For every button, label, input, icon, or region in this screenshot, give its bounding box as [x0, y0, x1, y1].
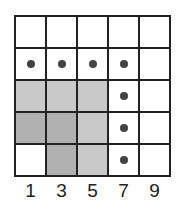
- dot-marker: [27, 60, 35, 68]
- grid-line-vertical: [45, 15, 47, 177]
- shaded-cell: [46, 144, 77, 176]
- grid-line-vertical: [169, 15, 171, 177]
- dot-marker: [120, 60, 128, 68]
- grid-line-horizontal: [14, 111, 171, 113]
- shaded-cell: [77, 80, 108, 112]
- shaded-cell: [15, 112, 46, 144]
- grid-line-vertical: [76, 15, 78, 177]
- shaded-cell: [77, 144, 108, 176]
- dot-marker: [120, 92, 128, 100]
- grid-line-horizontal: [14, 143, 171, 145]
- grid-line-vertical: [138, 15, 140, 177]
- dot-marker: [120, 124, 128, 132]
- grid-diagram: [15, 16, 170, 176]
- grid-line-horizontal: [14, 175, 171, 177]
- column-label: 3: [52, 180, 72, 202]
- grid-line-horizontal: [14, 47, 171, 49]
- dot-marker: [89, 60, 97, 68]
- grid-line-vertical: [107, 15, 109, 177]
- grid-line-vertical: [14, 15, 16, 177]
- shaded-cell: [15, 80, 46, 112]
- shaded-cell: [77, 112, 108, 144]
- shaded-cell: [46, 80, 77, 112]
- column-label: 5: [83, 180, 103, 202]
- column-label: 7: [114, 180, 134, 202]
- grid-line-horizontal: [14, 79, 171, 81]
- column-label: 1: [21, 180, 41, 202]
- dot-marker: [120, 156, 128, 164]
- grid-line-horizontal: [14, 15, 171, 17]
- dot-marker: [58, 60, 66, 68]
- column-label: 9: [145, 180, 165, 202]
- shaded-cell: [46, 112, 77, 144]
